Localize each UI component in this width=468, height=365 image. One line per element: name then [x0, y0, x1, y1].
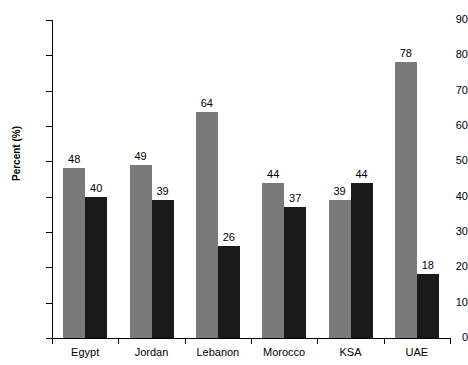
bar [417, 274, 439, 338]
bar-value-label: 78 [389, 47, 423, 59]
bar [284, 207, 306, 338]
x-axis-tick [52, 338, 53, 344]
x-axis-tick [251, 338, 252, 344]
x-axis-category-label: Lebanon [185, 346, 251, 358]
x-axis-category-label: Morocco [251, 346, 317, 358]
x-axis-tick [118, 338, 119, 344]
bar [196, 112, 218, 338]
x-axis-category-label: Egypt [52, 346, 118, 358]
bar [218, 246, 240, 338]
bar [63, 168, 85, 338]
x-axis-tick [450, 338, 451, 344]
x-axis-category-label: KSA [317, 346, 383, 358]
x-axis-category-label: UAE [384, 346, 450, 358]
bar-value-label: 37 [278, 192, 312, 204]
bar [85, 197, 107, 338]
x-axis-tick [185, 338, 186, 344]
bar [329, 200, 351, 338]
bar-value-label: 48 [57, 153, 91, 165]
plot-area: 484049396426443739447818 [52, 20, 450, 338]
bar-value-label: 44 [256, 168, 290, 180]
bar-value-label: 18 [411, 259, 445, 271]
y-axis-title: Percent (%) [11, 104, 22, 204]
bar-chart: Percent (%) 0102030405060708090 48404939… [0, 0, 468, 365]
x-axis-category-label: Jordan [118, 346, 184, 358]
bar [262, 183, 284, 338]
bar [351, 183, 373, 338]
bar [152, 200, 174, 338]
bar-value-label: 64 [190, 97, 224, 109]
bar-value-label: 49 [124, 150, 158, 162]
bar-value-label: 39 [146, 185, 180, 197]
bar-value-label: 26 [212, 231, 246, 243]
bar-value-label: 44 [345, 168, 379, 180]
x-axis-tick [317, 338, 318, 344]
bar [395, 62, 417, 338]
x-axis-tick [384, 338, 385, 344]
bar-value-label: 40 [79, 182, 113, 194]
